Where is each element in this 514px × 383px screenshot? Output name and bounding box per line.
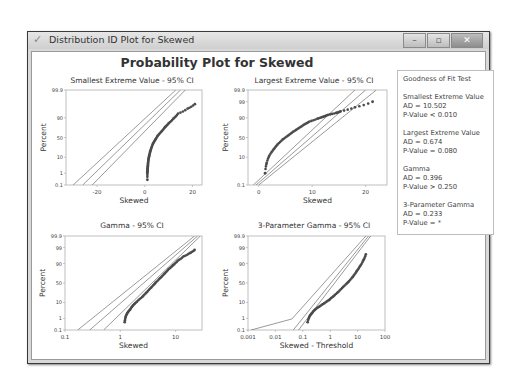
legend-title: Goodness of Fit Test [403,75,471,84]
x-tick-label: 0.001 [240,334,256,340]
y-tick-label: 10 [57,154,63,160]
x-tick-label: 20 [362,189,369,195]
y-tick-label: 99.9 [234,233,245,239]
y-tick-label: 10 [239,299,245,305]
data-point [184,109,187,112]
probability-plot-largest-extreme-value: 0.11050909999.901020SkewedPercent [214,52,414,212]
x-tick-label: 0 [143,189,147,195]
data-point [146,178,149,181]
y-tick-label: 50 [56,280,62,286]
graph-area: Probability Plot for Skewed Smallest Ext… [31,51,486,360]
x-tick-label: 0.1 [61,334,70,340]
y-tick-label: 90 [239,261,245,267]
data-point [367,102,370,105]
legend-dist-name: Largest Extreme Value [403,129,480,138]
legend-group-3p-gamma: 3-Parameter Gamma AD = 0.233 P-Value = * [403,201,474,228]
y-axis-label: Percent [38,269,47,297]
data-point [346,108,349,111]
y-tick-label: 1 [59,315,62,321]
y-tick-label: 90 [56,261,62,267]
data-point [358,105,361,108]
plot-frame [66,90,202,185]
goodness-of-fit-legend: Goodness of Fit Test Smallest Extreme Va… [397,70,494,235]
legend-p-value: P-Value > 0.250 [403,183,457,192]
legend-p-value: P-Value < 0.010 [403,111,484,120]
x-tick-label: 1 [119,334,123,340]
data-point [193,103,196,106]
x-tick-label: -20 [93,189,102,195]
legend-dist-name: Smallest Extreme Value [403,93,484,102]
y-tick-label: 90 [57,115,63,121]
x-tick-label: 10 [172,334,179,340]
y-axis-label: Percent [221,123,230,151]
y-tick-label: 99.9 [234,87,245,93]
data-point [339,110,342,113]
y-tick-label: 0.1 [237,182,245,188]
probability-plot-3-parameter-gamma: 0.111050909999.90.0010.010.1110100Skewed… [214,197,414,362]
y-tick-label: 50 [239,280,245,286]
window-controls: – ▫ ✕ [402,33,483,47]
legend-ad-value: AD = 0.233 [403,210,474,219]
data-point [350,107,353,110]
y-tick-label: 50 [239,135,245,141]
x-axis-label: Skewed - Threshold [280,341,354,350]
y-tick-label: 1 [242,315,245,321]
data-point [179,111,182,114]
x-tick-label: 0.1 [298,334,307,340]
data-point [362,104,365,107]
distribution-id-plot-window: ✓ Distribution ID Plot for Skewed – ▫ ✕ … [27,31,490,364]
legend-group-lev: Largest Extreme Value AD = 0.674 P-Value… [403,129,480,156]
data-point [264,172,267,175]
legend-ad-value: AD = 0.674 [403,138,480,147]
legend-dist-name: 3-Parameter Gamma [403,201,474,210]
close-button[interactable]: ✕ [451,33,483,48]
data-point [354,106,357,109]
probability-plot-smallest-extreme-value: 0.1110509099.9-20020SkewedPercent [32,52,232,212]
minimize-button[interactable]: – [403,33,426,48]
y-tick-label: 50 [57,135,63,141]
data-point [264,168,267,171]
y-tick-label: 90 [239,115,245,121]
legend-dist-name: Gamma [403,165,457,174]
legend-ad-value: AD = 10.502 [403,102,484,111]
y-tick-label: 0.1 [54,327,62,333]
data-point [265,161,268,164]
window-title: Distribution ID Plot for Skewed [49,34,194,45]
data-point [371,100,374,103]
y-tick-label: 99.9 [51,233,62,239]
y-tick-label: 0.1 [55,182,63,188]
y-tick-label: 0.1 [237,327,245,333]
data-point [343,109,346,112]
x-tick-label: 1 [328,334,332,340]
y-tick-label: 99.9 [52,87,63,93]
legend-p-value: P-Value = 0.080 [403,147,480,156]
legend-p-value: P-Value = * [403,219,474,228]
y-axis-label: Percent [221,269,230,297]
y-tick-label: 1 [60,170,63,176]
legend-ad-value: AD = 0.396 [403,174,457,183]
data-point [193,249,196,252]
x-tick-label: 0 [257,189,261,195]
legend-group-gamma: Gamma AD = 0.396 P-Value > 0.250 [403,165,457,192]
y-axis-label: Percent [39,123,48,151]
maximize-button[interactable]: ▫ [427,33,450,48]
data-point [182,110,185,113]
title-bar[interactable]: ✓ Distribution ID Plot for Skewed – ▫ ✕ [28,32,489,49]
x-tick-label: 100 [380,334,391,340]
x-tick-label: 0.01 [269,334,281,340]
x-axis-label: Skewed [119,341,148,350]
x-tick-label: 10 [309,189,316,195]
y-tick-label: 99 [56,245,62,251]
checkmark-icon: ✓ [33,33,42,46]
y-tick-label: 99 [239,99,245,105]
y-tick-label: 10 [56,299,62,305]
legend-group-sev: Smallest Extreme Value AD = 10.502 P-Val… [403,93,484,120]
data-point [364,253,367,256]
data-point [177,112,180,115]
x-tick-label: 10 [354,334,361,340]
y-tick-label: 10 [239,154,245,160]
probability-plot-gamma: 0.111050909999.90.1110SkewedPercent [32,197,232,362]
y-tick-label: 99 [239,245,245,251]
plot-frame [248,236,385,330]
x-tick-label: 20 [189,189,196,195]
